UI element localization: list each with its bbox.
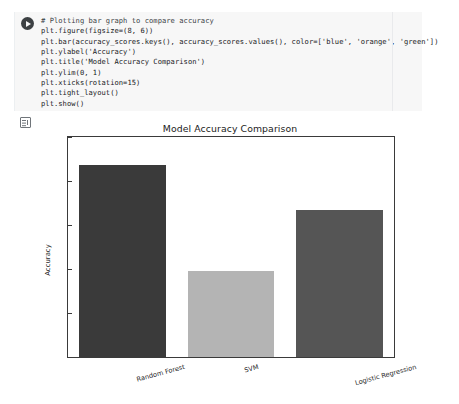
bar — [296, 210, 383, 357]
code-line: # Plotting bar graph to compare accuracy — [41, 16, 420, 26]
cell-right-divider — [392, 12, 393, 111]
notebook-code-cell[interactable]: # Plotting bar graph to compare accuracy… — [14, 12, 422, 111]
x-axis-tick: SVM — [243, 363, 259, 374]
code-line: plt.ylim(0, 1) — [41, 68, 420, 78]
code-line: plt.bar(accuracy_scores.keys(), accuracy… — [41, 37, 420, 47]
bar — [79, 165, 166, 357]
code-line: plt.ylabel('Accuracy') — [41, 47, 420, 57]
matplotlib-figure: Model Accuracy Comparison Accuracy Rando… — [20, 120, 440, 400]
cell-gutter — [15, 12, 37, 111]
code-line: plt.tight_layout() — [41, 88, 420, 98]
code-line: plt.show() — [41, 99, 420, 109]
code-line: plt.figure(figsize=(8, 6)) — [41, 26, 420, 36]
x-axis-tick: Logistic Regression — [354, 363, 417, 387]
bar — [188, 271, 275, 357]
code-editor[interactable]: # Plotting bar graph to compare accuracy… — [41, 16, 420, 111]
run-cell-icon[interactable] — [21, 17, 34, 30]
bar-series — [68, 137, 394, 357]
y-axis-label: Accuracy — [44, 244, 52, 275]
code-line: plt.title('Model Accuracy Comparison') — [41, 57, 420, 67]
plot-area: Random ForestSVMLogistic Regression — [67, 136, 395, 358]
chart-title: Model Accuracy Comparison — [20, 123, 440, 134]
code-line: plt.xticks(rotation=15) — [41, 78, 420, 88]
x-axis-tick: Random Forest — [136, 363, 186, 384]
